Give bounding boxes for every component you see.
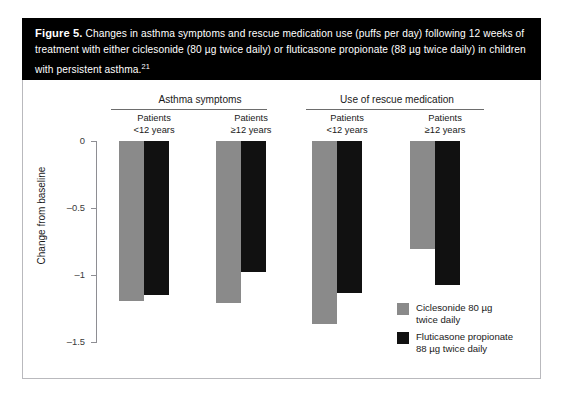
chart-legend: Ciclesonide 80 µg twice daily Fluticason… <box>397 302 513 360</box>
bar-ciclesonide-rescue-under12 <box>312 141 337 324</box>
y-tick-mark-15 <box>91 342 97 343</box>
y-tick-label-05: –0.5 <box>45 202 85 213</box>
y-tick-label-15: –1.5 <box>45 336 85 347</box>
legend-item-ciclesonide: Ciclesonide 80 µg twice daily <box>397 302 513 328</box>
figure-caption: Figure 5. Changes in asthma symptoms and… <box>22 18 541 80</box>
figure-caption-text: Changes in asthma symptoms and rescue me… <box>35 28 526 75</box>
legend-item-fluticasone: Fluticasone propionate 88 µg twice daily <box>397 331 513 357</box>
group-title-asthma-symptoms: Asthma symptoms <box>111 94 289 105</box>
legend-swatch-ciclesonide <box>397 303 409 315</box>
y-tick-mark-1 <box>91 275 97 276</box>
y-tick-mark-05 <box>91 208 97 209</box>
bar-fluticasone-rescue-over12 <box>435 141 460 285</box>
bar-fluticasone-asthma-under12 <box>144 141 169 295</box>
bar-ciclesonide-asthma-over12 <box>216 141 241 303</box>
bar-fluticasone-rescue-under12 <box>337 141 362 293</box>
subgroup-label-1: Patients <12 years <box>109 113 199 137</box>
y-tick-label-1: –1 <box>45 269 85 280</box>
subgroup-label-4: Patients ≥12 years <box>400 113 490 137</box>
y-tick-label-0: 0 <box>45 135 85 146</box>
figure-reference: 21 <box>142 62 150 71</box>
bar-ciclesonide-asthma-under12 <box>119 141 144 301</box>
figure-label: Figure 5. <box>35 27 83 39</box>
bar-ciclesonide-rescue-over12 <box>410 141 435 249</box>
plot-area: Asthma symptoms Use of rescue medication… <box>23 80 542 379</box>
y-axis-label: Change from baseline <box>36 136 47 296</box>
group-title-rescue-medication: Use of rescue medication <box>304 94 490 105</box>
y-axis-line <box>96 141 97 343</box>
subgroup-label-3: Patients <12 years <box>302 113 392 137</box>
legend-swatch-fluticasone <box>397 332 409 344</box>
bar-fluticasone-asthma-over12 <box>241 141 266 272</box>
group-rule-asthma-symptoms <box>111 109 267 110</box>
group-rule-rescue-medication <box>306 109 484 110</box>
y-tick-mark-0 <box>91 141 97 142</box>
chart-panel: Asthma symptoms Use of rescue medication… <box>22 80 541 379</box>
subgroup-label-2: Patients ≥12 years <box>206 113 296 137</box>
